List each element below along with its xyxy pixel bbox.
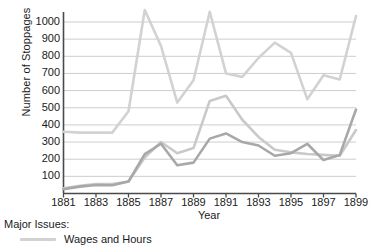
y-tick-label: 600 (22, 85, 60, 96)
legend-swatch-icon (20, 238, 56, 241)
y-tick-label: 900 (22, 33, 60, 44)
chart-figure: Number of Stoppages Year 100090080070060… (0, 0, 380, 247)
y-tick-label: 400 (22, 119, 60, 130)
series-lines (64, 10, 357, 189)
y-tick-label: 300 (22, 136, 60, 147)
chart-legend: Major Issues: Wages and Hours (4, 218, 380, 246)
legend-item-label: Wages and Hours (64, 233, 152, 246)
plot-area: Number of Stoppages Year 100090080070060… (0, 0, 380, 247)
series-line (64, 10, 357, 133)
y-tick-label: 100 (22, 170, 60, 181)
y-tick-labels: 1000900800700600500400300200100 (20, 0, 60, 200)
y-tick-label: 800 (22, 50, 60, 61)
y-tick-label: 200 (22, 153, 60, 164)
y-tick-label: 500 (22, 102, 60, 113)
legend-item-wages-and-hours: Wages and Hours (20, 233, 380, 246)
y-tick-label: 1000 (22, 16, 60, 27)
series-line (64, 109, 357, 189)
x-tick-label: 1899 (334, 196, 378, 208)
legend-title: Major Issues: (4, 218, 380, 230)
y-tick-label: 700 (22, 67, 60, 78)
